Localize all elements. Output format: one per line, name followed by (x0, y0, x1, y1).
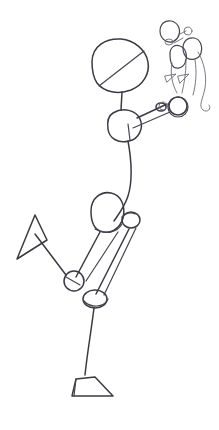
main-spine (114, 141, 131, 221)
main-figure (17, 39, 187, 396)
main-raised-leg (76, 232, 118, 281)
main-neck (121, 92, 122, 110)
main-standing-knee (83, 290, 108, 308)
main-chest (108, 110, 142, 142)
small-second-head (183, 38, 202, 60)
sketch-illustration (0, 0, 219, 430)
main-standing-leg (96, 228, 136, 295)
small-figure (159, 21, 210, 117)
main-raised-shin (35, 234, 66, 275)
small-body (170, 45, 186, 68)
small-tail (198, 52, 210, 111)
small-hind-circle (168, 97, 188, 117)
drawing-canvas (0, 0, 219, 430)
main-standing-foot (72, 377, 113, 396)
main-hip-joint (122, 212, 140, 228)
main-raised-knee (64, 271, 84, 291)
main-raised-foot (17, 215, 47, 259)
main-shin (85, 308, 94, 375)
main-head (92, 39, 148, 92)
